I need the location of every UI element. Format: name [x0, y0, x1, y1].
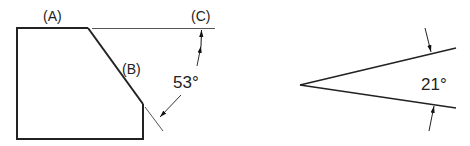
chamfer-extension-line — [145, 107, 163, 131]
acute-angle-figure: 21° — [300, 28, 456, 131]
angle-dimension-arc-53-lower — [160, 95, 181, 117]
angle-label-53: 53° — [173, 73, 199, 92]
label-c: (C) — [191, 8, 210, 24]
arrow-upper-shaft — [201, 30, 202, 46]
label-b: (B) — [122, 61, 141, 77]
angle-dimension-arc-53 — [197, 46, 201, 66]
dimension-arrow-lower — [429, 106, 434, 131]
block-outline — [17, 28, 143, 139]
angle-label-21: 21° — [421, 75, 447, 94]
diagram-canvas: (A) (B) (C) 53° 21° — [0, 0, 470, 146]
label-a: (A) — [43, 8, 62, 24]
dimension-arrow-upper — [425, 28, 431, 52]
chamfered-block-figure: (A) (B) (C) 53° — [17, 8, 215, 139]
